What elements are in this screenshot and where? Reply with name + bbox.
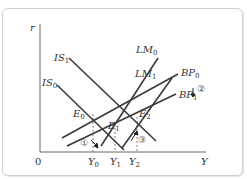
- bp1-label: BP1: [178, 89, 198, 102]
- is-lm-bp-diagram: r 0 Y IS1 IS0 LM0 LM1 BP0 BP1 E0 E1 E2 Y…: [0, 0, 247, 179]
- is1-label: IS1: [53, 52, 69, 65]
- y1-tick-label: Y1: [110, 156, 121, 169]
- lm0-label: LM0: [135, 44, 157, 57]
- axes: [40, 24, 206, 152]
- step-1-marker: ①: [80, 138, 88, 148]
- curves: [57, 58, 178, 150]
- y0-tick-label: Y0: [88, 156, 99, 169]
- bp0-label: BP0: [180, 67, 200, 80]
- y2-tick-label: Y2: [129, 156, 140, 169]
- is0-curve: [57, 85, 124, 150]
- step-3-marker: ③: [138, 135, 146, 145]
- x-axis-label: Y: [201, 156, 209, 167]
- is0-label: IS0: [41, 77, 57, 90]
- origin-label: 0: [35, 156, 41, 167]
- y-axis-label: r: [30, 22, 36, 33]
- step-2-marker: ②: [197, 84, 205, 94]
